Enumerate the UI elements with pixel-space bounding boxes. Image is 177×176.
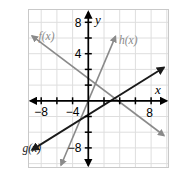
y-axis-label: y (93, 12, 101, 27)
x-tick-label-8: 8 (146, 106, 153, 120)
graph-canvas: x y −8 −4 8 8 4 −8 f(x) g(x) h(x) (0, 0, 177, 176)
x-tick-label-neg4: −4 (66, 105, 80, 119)
y-tick-label-neg8: −8 (68, 141, 82, 155)
curve-label-f: f(x) (39, 30, 55, 43)
curve-label-g: g(x) (23, 142, 42, 155)
x-axis-label: x (154, 82, 161, 97)
curve-label-h: h(x) (119, 34, 138, 47)
y-tick-label-8: 8 (75, 16, 82, 30)
x-tick-label-neg8: −8 (34, 105, 48, 119)
y-tick-label-4: 4 (75, 47, 82, 61)
coordinate-plane-figure: x y −8 −4 8 8 4 −8 f(x) g(x) h(x) (0, 0, 177, 176)
